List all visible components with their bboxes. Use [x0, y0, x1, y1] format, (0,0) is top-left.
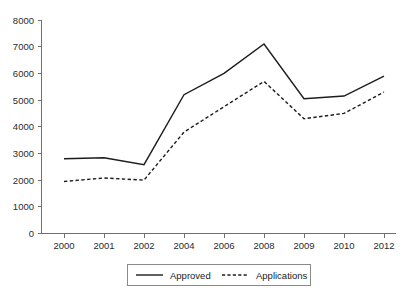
y-tick-label-6000: 6000	[13, 68, 34, 79]
series-line-approved	[64, 44, 384, 165]
chart-legend: Approved Applications	[128, 265, 311, 286]
y-tick-label-5000: 5000	[13, 95, 34, 106]
x-axis-ticks: 2000 2001 2002 2004 2006 2008 2009 2010 …	[53, 234, 394, 252]
x-tick-label-2002: 2002	[133, 240, 154, 251]
x-tick-label-2008: 2008	[253, 240, 274, 251]
y-tick-label-3000: 3000	[13, 148, 34, 159]
y-tick-label-7000: 7000	[13, 41, 34, 52]
x-tick-label-2012: 2012	[373, 240, 394, 251]
y-tick-label-8000: 8000	[13, 15, 34, 26]
y-axis-ticks: 0 1000 2000 3000 4000 5000 6000 7000 800…	[13, 15, 42, 240]
x-tick-label-2001: 2001	[93, 240, 114, 251]
x-tick-label-2010: 2010	[333, 240, 354, 251]
y-tick-label-1000: 1000	[13, 201, 34, 212]
legend-label-approved: Approved	[170, 270, 211, 281]
y-tick-label-2000: 2000	[13, 175, 34, 186]
y-tick-label-0: 0	[29, 228, 34, 239]
legend-label-applications: Applications	[256, 270, 307, 281]
x-tick-label-2004: 2004	[173, 240, 194, 251]
line-chart-svg: 0 1000 2000 3000 4000 5000 6000 7000 800…	[0, 0, 411, 296]
x-tick-label-2006: 2006	[213, 240, 234, 251]
x-tick-label-2000: 2000	[53, 240, 74, 251]
y-tick-label-4000: 4000	[13, 121, 34, 132]
x-tick-label-2009: 2009	[293, 240, 314, 251]
chart-figure: 0 1000 2000 3000 4000 5000 6000 7000 800…	[0, 0, 411, 296]
